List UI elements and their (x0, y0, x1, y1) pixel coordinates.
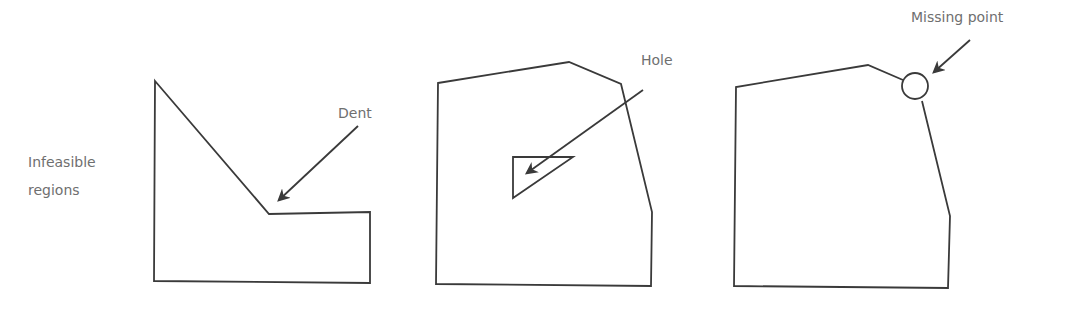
hole-region (436, 62, 652, 286)
diagram-canvas (0, 0, 1066, 309)
infeasible-label-line2: regions (28, 183, 80, 197)
hole-triangle (513, 157, 573, 198)
hole-arrow (527, 90, 643, 173)
infeasible-label-line1: Infeasible (28, 155, 96, 169)
missing-point-arrow (934, 40, 970, 72)
missing-point-label: Missing point (911, 10, 1003, 24)
missing-point-circle (902, 73, 928, 99)
dent-label: Dent (338, 106, 372, 120)
dent-arrow (279, 126, 358, 200)
missing-point-region (734, 65, 950, 288)
hole-label: Hole (641, 53, 673, 67)
